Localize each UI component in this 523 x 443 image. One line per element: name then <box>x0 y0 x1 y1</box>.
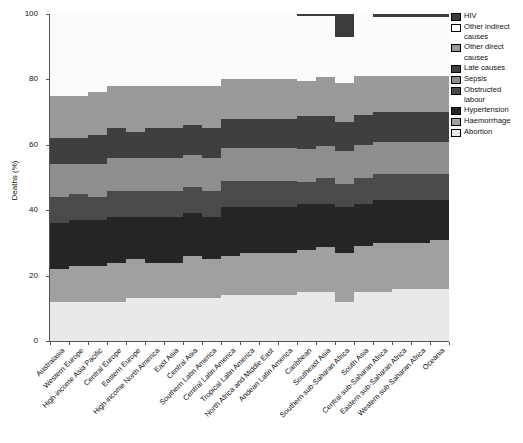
legend-item[interactable]: HIV <box>451 11 523 22</box>
legend-swatch <box>451 107 461 115</box>
legend-label: Abortion <box>464 127 492 137</box>
legend-swatch <box>451 24 461 32</box>
legend-label: Obstructed labour <box>464 85 522 105</box>
legend-swatch <box>451 87 461 95</box>
legend-label: HIV <box>464 11 477 21</box>
legend-swatch <box>451 129 461 137</box>
legend-swatch <box>451 44 461 52</box>
legend-label: Other direct causes <box>464 42 522 62</box>
legend-swatch <box>451 118 461 126</box>
legend-swatch <box>451 65 461 73</box>
legend-item[interactable]: Late causes <box>451 63 523 74</box>
legend-item[interactable]: Other direct causes <box>451 42 523 62</box>
legend-item[interactable]: Other indirect causes <box>451 22 523 42</box>
legend-item[interactable]: Abortion <box>451 127 523 138</box>
legend-label: Other indirect causes <box>464 22 522 42</box>
legend-item[interactable]: Haemorrhage <box>451 116 523 127</box>
legend-label: Late causes <box>464 63 505 73</box>
legend-swatch <box>451 13 461 21</box>
chart-legend: HIVOther indirect causesOther direct cau… <box>451 11 523 138</box>
legend-swatch <box>451 76 461 84</box>
legend-item[interactable]: Hypertension <box>451 105 523 116</box>
chart-figure: Deaths (%) 020406080100 AustralasiaWeste… <box>0 0 523 443</box>
legend-item[interactable]: Obstructed labour <box>451 85 523 105</box>
legend-item[interactable]: Sepsis <box>451 74 523 85</box>
legend-label: Sepsis <box>464 74 487 84</box>
legend-label: Haemorrhage <box>464 116 510 126</box>
legend-label: Hypertension <box>464 105 509 115</box>
